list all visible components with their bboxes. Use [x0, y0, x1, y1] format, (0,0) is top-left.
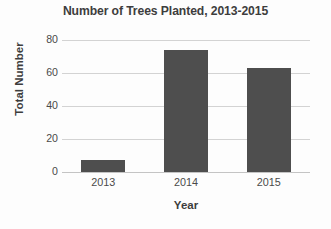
y-tick-label: 60 — [24, 67, 58, 78]
y-tick-label: 40 — [24, 100, 58, 111]
plot-area — [62, 40, 310, 172]
bar-2015 — [247, 68, 291, 172]
bar-chart: Number of Trees Planted, 2013-2015 Total… — [0, 0, 331, 229]
y-axis-tick-labels: 020406080 — [20, 40, 58, 172]
x-tick-label: 2013 — [62, 176, 145, 188]
bars — [62, 40, 310, 172]
x-tick-label: 2015 — [227, 176, 310, 188]
x-axis-tick-labels: 201320142015 — [62, 176, 310, 192]
chart-title: Number of Trees Planted, 2013-2015 — [0, 4, 331, 18]
x-tick-label: 2014 — [145, 176, 228, 188]
bar-2013 — [81, 160, 125, 172]
y-tick-label: 80 — [24, 34, 58, 45]
y-tick-label: 20 — [24, 133, 58, 144]
bar-2014 — [164, 50, 208, 172]
y-tick-label: 0 — [24, 166, 58, 177]
x-axis-title: Year — [62, 199, 310, 211]
